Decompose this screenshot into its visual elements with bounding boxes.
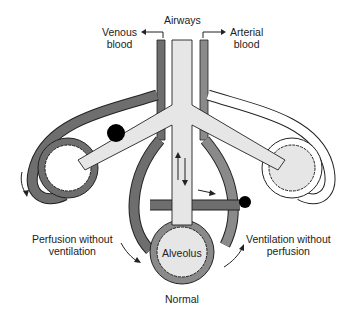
arterial-out-arrow xyxy=(203,32,222,38)
airway-obstruction xyxy=(107,124,125,142)
shunt-arrow xyxy=(209,190,216,196)
vq-mismatch-diagram xyxy=(0,0,345,313)
alveolus-label: Alveolus xyxy=(162,247,202,259)
venous-blood-label: Venous blood xyxy=(102,26,137,50)
arterial-blood-label: Arterial blood xyxy=(230,26,263,50)
venous-out-arrow xyxy=(145,32,163,38)
normal-out-arrow xyxy=(224,247,243,267)
airways-label: Airways xyxy=(164,14,201,26)
perfusion-without-ventilation-label: Perfusion without ventilation xyxy=(32,233,113,257)
ventilation-without-perfusion-label: Ventilation without perfusion xyxy=(246,233,331,257)
normal-in-arrow xyxy=(121,243,138,262)
vessel-obstruction xyxy=(239,196,251,208)
normal-label: Normal xyxy=(165,293,199,305)
